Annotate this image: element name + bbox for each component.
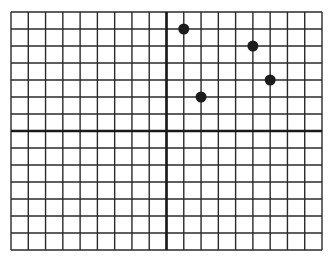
plotted-point	[178, 24, 189, 35]
plotted-point	[265, 75, 276, 86]
plotted-point	[247, 41, 258, 52]
plotted-point	[196, 92, 207, 103]
axes	[11, 12, 322, 250]
coordinate-plane	[0, 0, 333, 269]
